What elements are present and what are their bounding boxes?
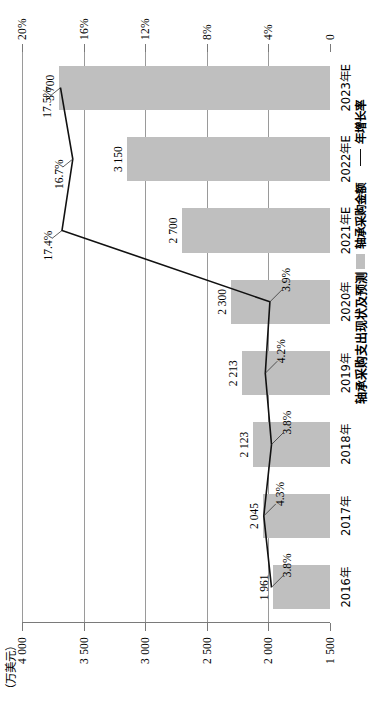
line-series <box>0 0 387 713</box>
legend-line-swatch-icon <box>360 149 361 166</box>
line-value-label: 3.8% <box>281 553 293 577</box>
legend-bar-swatch-icon <box>356 254 365 269</box>
line-path <box>61 88 272 588</box>
line-value-label: 4.3% <box>274 482 286 506</box>
line-value-label: 16.7% <box>53 159 65 189</box>
legend-item-line: 年增长率 <box>352 100 368 166</box>
line-value-label: 17.5% <box>41 88 53 118</box>
chart-canvas: 轴承采购支出现状及预测 （万美元） 1 5002 0002 5003 0003 … <box>0 0 387 713</box>
legend-line-label: 年增长率 <box>352 100 368 144</box>
line-value-label: 4.2% <box>275 339 287 363</box>
line-value-label: 3.8% <box>281 411 293 435</box>
legend-item-bar: 轴承采购金额 <box>352 183 368 269</box>
legend-bar-label: 轴承采购金额 <box>352 183 368 249</box>
rotated-chart-frame: 轴承采购支出现状及预测 （万美元） 1 5002 0002 5003 0003 … <box>0 0 387 713</box>
chart-rotation-wrapper: 轴承采购支出现状及预测 （万美元） 1 5002 0002 5003 0003 … <box>0 0 387 713</box>
line-value-label: 3.9% <box>280 268 292 292</box>
line-value-label: 17.4% <box>42 231 54 261</box>
